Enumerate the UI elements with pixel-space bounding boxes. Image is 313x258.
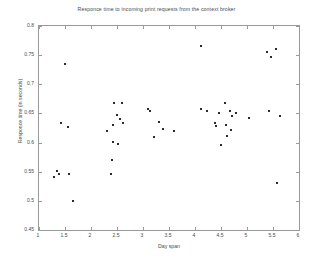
- y-axis-tick: [39, 26, 42, 27]
- y-axis-tick: [39, 84, 42, 85]
- x-axis-tick-top: [91, 26, 92, 29]
- scatter-point: [119, 118, 121, 120]
- y-axis-tick: [39, 172, 42, 173]
- x-axis-tick-top: [65, 26, 66, 29]
- scatter-point: [60, 122, 62, 124]
- x-axis-tick-top: [143, 26, 144, 29]
- scatter-point: [229, 110, 231, 112]
- y-axis-tick-label: 0.6: [6, 139, 34, 145]
- x-axis-tick-label: 1.5: [61, 232, 68, 238]
- scatter-point: [224, 102, 226, 104]
- scatter-point: [113, 102, 115, 104]
- scatter-point: [72, 200, 74, 202]
- scatter-point: [214, 122, 216, 124]
- x-axis-tick-label: 5: [245, 232, 248, 238]
- scatter-point: [270, 56, 272, 58]
- scatter-point: [64, 63, 66, 65]
- x-axis-tick-label: 5.5: [269, 232, 276, 238]
- x-axis-tick: [65, 227, 66, 230]
- x-axis-tick: [169, 227, 170, 230]
- scatter-point: [279, 115, 281, 117]
- scatter-point: [122, 122, 124, 124]
- scatter-point: [158, 121, 160, 123]
- x-axis-tick: [273, 227, 274, 230]
- x-axis-tick: [221, 227, 222, 230]
- scatter-point: [116, 114, 118, 116]
- y-axis-tick-right: [296, 172, 299, 173]
- y-axis-tick: [39, 201, 42, 202]
- x-axis-tick: [143, 227, 144, 230]
- y-axis-tick-label: 0.8: [6, 22, 34, 28]
- y-axis-tick-right: [296, 113, 299, 114]
- scatter-point: [226, 135, 228, 137]
- y-axis-tick-right: [296, 84, 299, 85]
- scatter-point: [112, 124, 114, 126]
- y-axis-tick-label: 0.65: [6, 109, 34, 115]
- scatter-point: [149, 110, 151, 112]
- x-axis-tick-label: 1: [37, 232, 40, 238]
- scatter-point: [276, 182, 278, 184]
- x-axis-tick-top: [221, 26, 222, 29]
- y-axis-tick-label: 0.55: [6, 168, 34, 174]
- scatter-point: [56, 170, 58, 172]
- scatter-point: [53, 176, 55, 178]
- y-axis-tick-right: [296, 55, 299, 56]
- scatter-point: [58, 173, 60, 175]
- x-axis-tick-label: 3: [141, 232, 144, 238]
- scatter-point: [275, 48, 277, 50]
- scatter-point: [235, 112, 237, 114]
- scatter-point: [266, 51, 268, 53]
- scatter-point: [220, 144, 222, 146]
- scatter-point: [218, 112, 220, 114]
- scatter-point: [162, 128, 164, 130]
- scatter-point: [117, 143, 119, 145]
- y-axis-tick: [39, 113, 42, 114]
- scatter-point: [231, 115, 233, 117]
- scatter-point: [248, 117, 250, 119]
- y-axis-tick-label: 0.5: [6, 197, 34, 203]
- scatter-point: [67, 126, 69, 128]
- scatter-point: [68, 173, 70, 175]
- scatter-point: [200, 108, 202, 110]
- x-axis-tick-top: [117, 26, 118, 29]
- y-axis-tick-label: 0.45: [6, 226, 34, 232]
- x-axis-tick: [117, 227, 118, 230]
- x-axis-tick: [195, 227, 196, 230]
- x-axis-tick-label: 2: [89, 232, 92, 238]
- x-axis-tick-label: 6: [297, 232, 300, 238]
- x-axis-label: Day span: [38, 243, 300, 249]
- x-axis-tick-top: [247, 26, 248, 29]
- y-axis-tick-label: 0.7: [6, 80, 34, 86]
- x-axis-tick-label: 2.5: [113, 232, 120, 238]
- y-axis-tick-label: 0.75: [6, 51, 34, 57]
- plot-area: [38, 25, 300, 231]
- scatter-point: [111, 159, 113, 161]
- x-axis-tick-top: [299, 26, 300, 29]
- scatter-point: [106, 130, 108, 132]
- scatter-point: [215, 125, 217, 127]
- scatter-point: [173, 130, 175, 132]
- x-axis-tick: [299, 227, 300, 230]
- y-axis-tick-right: [296, 201, 299, 202]
- y-axis-tick-right: [296, 230, 299, 231]
- scatter-point: [112, 141, 114, 143]
- x-axis-tick: [247, 227, 248, 230]
- x-axis-tick-top: [169, 26, 170, 29]
- y-axis-tick-right: [296, 143, 299, 144]
- y-axis-tick: [39, 143, 42, 144]
- x-axis-tick-label: 3.5: [165, 232, 172, 238]
- x-axis-tick-top: [273, 26, 274, 29]
- x-axis-tick-top: [195, 26, 196, 29]
- x-axis-tick-label: 4.5: [217, 232, 224, 238]
- y-axis-tick: [39, 230, 42, 231]
- scatter-point: [121, 102, 123, 104]
- scatter-point: [200, 45, 202, 47]
- y-axis-tick: [39, 55, 42, 56]
- chart-title: Responce time to incoming print requests…: [0, 6, 313, 12]
- y-axis-tick-right: [296, 26, 299, 27]
- scatter-point: [110, 173, 112, 175]
- scatter-plot-figure: Responce time to incoming print requests…: [0, 0, 313, 258]
- scatter-point: [206, 110, 208, 112]
- scatter-point: [268, 110, 270, 112]
- x-axis-tick: [91, 227, 92, 230]
